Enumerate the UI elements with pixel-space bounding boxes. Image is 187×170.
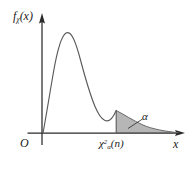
chi-square-figure: fχ(x) O x χ2α(n) α: [0, 0, 187, 170]
y-axis-label-argument: (x): [20, 9, 33, 23]
critical-value-argument: (n): [111, 137, 124, 149]
critical-value-label: χ2α(n): [99, 138, 124, 151]
x-axis-label: x: [173, 138, 178, 150]
origin-label: O: [20, 137, 29, 149]
y-axis-label: fχ(x): [13, 10, 33, 23]
density-curve: [43, 33, 116, 133]
y-axis-arrowhead: [39, 13, 45, 24]
alpha-label: α: [142, 111, 148, 122]
x-axis-arrowhead: [175, 130, 185, 136]
